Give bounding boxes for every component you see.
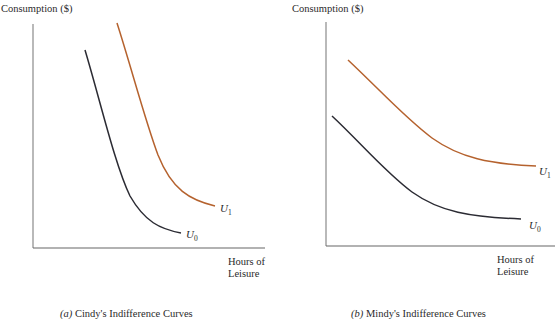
curve-label-u1: U1	[539, 165, 551, 180]
indifference-curve-u1	[348, 60, 536, 166]
chart-canvas: U1 U0 U1 U0	[0, 0, 555, 319]
curve-label-u0: U0	[529, 219, 541, 234]
indifference-curve-u1	[117, 23, 215, 206]
curve-label-u1: U1	[220, 202, 232, 217]
curve-label-u0: U0	[186, 228, 198, 243]
indifference-curve-u0	[332, 116, 521, 219]
